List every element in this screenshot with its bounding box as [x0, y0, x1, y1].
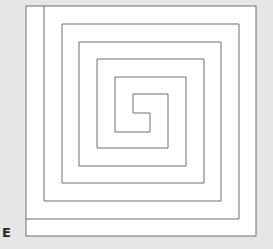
panel-label: E — [2, 226, 11, 240]
spiral-diagram — [0, 0, 273, 249]
